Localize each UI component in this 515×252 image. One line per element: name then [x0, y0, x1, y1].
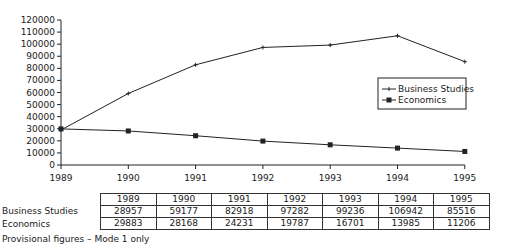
- y-tick-label: 30000: [26, 124, 55, 134]
- x-tick-label: 1989: [50, 173, 73, 183]
- table-cell: 28957: [101, 206, 157, 218]
- series-economics: [59, 126, 468, 154]
- table-cell: 24231: [212, 218, 268, 230]
- table-cell: 29883: [101, 218, 157, 230]
- line-chart: 0100002000030000400005000060000700008000…: [0, 0, 515, 190]
- table-cell: 28168: [156, 218, 212, 230]
- table-cell: 99236: [323, 206, 379, 218]
- y-tick-label: 80000: [26, 63, 55, 73]
- table-row-labels: Business Studies Economics: [2, 205, 78, 231]
- table-header-cell: 1989: [101, 194, 157, 206]
- square-marker-icon: [387, 98, 392, 103]
- x-tick-label: 1990: [117, 173, 140, 183]
- table-header-cell: 1994: [378, 194, 434, 206]
- table-cell: 16701: [323, 218, 379, 230]
- square-marker-icon: [193, 133, 198, 138]
- row-label-business-studies: Business Studies: [2, 205, 78, 218]
- table-row: 29883 28168 24231 19787 16701 13985 1120…: [101, 218, 490, 230]
- y-tick-label: 60000: [26, 88, 55, 98]
- table-cell: 13985: [378, 218, 434, 230]
- x-tick-label: 1992: [251, 173, 274, 183]
- row-label-economics: Economics: [2, 218, 78, 231]
- table-header-cell: 1990: [156, 194, 212, 206]
- table-header-cell: 1993: [323, 194, 379, 206]
- y-tick-label: 70000: [26, 75, 55, 85]
- x-tick-label: 1994: [386, 173, 409, 183]
- y-tick-label: 90000: [26, 51, 55, 61]
- table-header-row: 1989 1990 1991 1992 1993 1994 1995: [101, 194, 490, 206]
- square-marker-icon: [328, 142, 333, 147]
- y-tick-label: 40000: [26, 112, 55, 122]
- data-table: 1989 1990 1991 1992 1993 1994 1995 28957…: [100, 193, 490, 230]
- table-cell: 85516: [434, 206, 490, 218]
- y-tick-label: 110000: [21, 27, 56, 37]
- table-cell: 59177: [156, 206, 212, 218]
- table-cell: 106942: [378, 206, 434, 218]
- y-tick-label: 50000: [26, 100, 55, 110]
- square-marker-icon: [462, 149, 467, 154]
- y-tick-label: 120000: [21, 15, 56, 25]
- y-tick-label: 0: [49, 160, 55, 170]
- table-cell: 82918: [212, 206, 268, 218]
- square-marker-icon: [395, 146, 400, 151]
- y-tick-label: 10000: [26, 148, 55, 158]
- x-tick-label: 1995: [453, 173, 476, 183]
- y-tick-label: 20000: [26, 136, 55, 146]
- legend: Business StudiesEconomics: [378, 78, 474, 109]
- y-tick-label: 100000: [21, 39, 56, 49]
- x-tick-label: 1991: [184, 173, 207, 183]
- x-tick-label: 1993: [319, 173, 342, 183]
- square-marker-icon: [59, 126, 64, 131]
- square-marker-icon: [126, 128, 131, 133]
- table-header-cell: 1991: [212, 194, 268, 206]
- table-cell: 19787: [267, 218, 323, 230]
- footnote: Provisional figures – Mode 1 only: [2, 234, 149, 244]
- legend-label: Business Studies: [398, 84, 474, 94]
- square-marker-icon: [260, 139, 265, 144]
- legend-label: Economics: [398, 95, 447, 105]
- table-cell: 11206: [434, 218, 490, 230]
- table-row: 28957 59177 82918 97282 99236 106942 855…: [101, 206, 490, 218]
- table-cell: 97282: [267, 206, 323, 218]
- table-header-cell: 1992: [267, 194, 323, 206]
- table-header-cell: 1995: [434, 194, 490, 206]
